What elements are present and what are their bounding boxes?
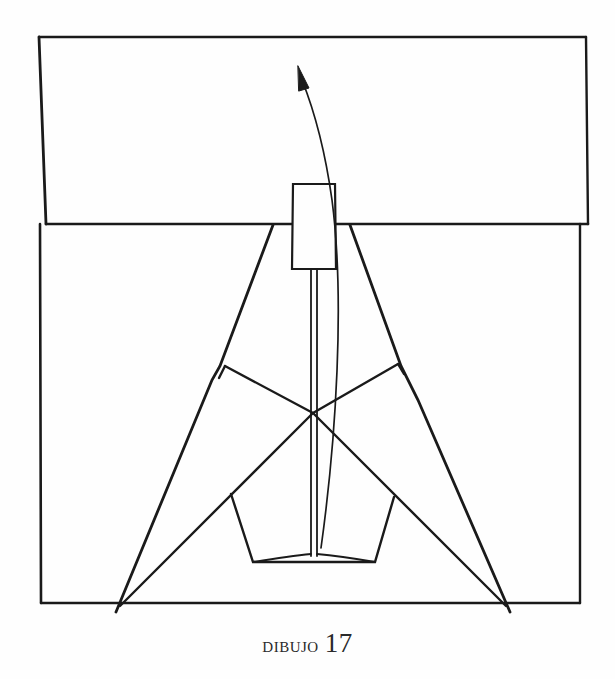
caption-word: DIBUJO: [262, 632, 318, 657]
diagram-page: DIBUJO17: [0, 0, 615, 679]
caption-number: 17: [325, 628, 353, 658]
base-square: [40, 224, 580, 603]
bottom-pentagon: [231, 494, 394, 562]
crossing-diagonal-lines: [120, 364, 506, 606]
origami-fold-diagram: [0, 0, 615, 679]
outer-kite-sides: [116, 225, 510, 612]
curved-fold-arrow: [298, 66, 338, 548]
figure-caption: DIBUJO17: [0, 628, 615, 659]
center-rectangular-flap: [292, 184, 336, 269]
